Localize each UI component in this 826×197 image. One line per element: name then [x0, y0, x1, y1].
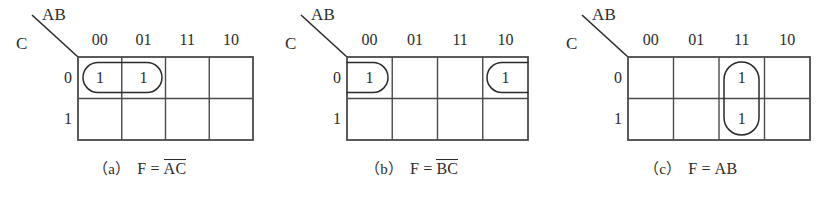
kmap-c-cell-r0-c11: 1	[732, 70, 752, 86]
kmap-c-caption-term-1: A	[715, 160, 727, 177]
kmap-a-c-header: C	[16, 35, 27, 52]
kmap-b-ab-header: AB	[311, 6, 335, 23]
kmap-a-caption-term-2: C	[175, 159, 186, 178]
kmap-b-col-header-01: 01	[392, 32, 438, 48]
kmap-b: AB C 00 01 11 10 0 1 1 1 （b）F=BC	[269, 0, 545, 197]
kmap-c-caption-equals: =	[701, 160, 710, 177]
kmap-c: AB C 00 01 11 10 0 1 1 1 （c）F=AB	[550, 0, 826, 197]
kmap-c-caption-term-2: B	[726, 160, 737, 177]
kmap-b-caption: （b）F=BC	[365, 157, 458, 178]
kmap-a: AB C 00 01 11 10 0 1 1 1 （a）F=AC	[0, 0, 276, 197]
kmap-a-cell-r0-c01: 1	[134, 70, 154, 86]
kmap-c-col-header-11: 11	[719, 32, 765, 48]
kmap-b-col-header-10: 10	[482, 32, 528, 48]
kmap-a-caption-index: （a）	[93, 161, 130, 177]
kmap-a-row-header-0: 0	[56, 70, 72, 86]
kmap-c-row-header-1: 1	[606, 111, 622, 127]
kmap-a-col-header-11: 11	[164, 32, 210, 48]
kmap-a-caption-equals: =	[150, 160, 159, 177]
kmap-b-row-header-0: 0	[325, 70, 341, 86]
kmap-c-ab-header: AB	[592, 6, 616, 23]
kmap-c-c-header: C	[566, 35, 577, 52]
kmap-b-c-header: C	[285, 35, 296, 52]
kmap-a-caption-lhs: F	[137, 160, 146, 177]
kmap-b-row-header-1: 1	[325, 111, 341, 127]
kmap-b-cell-r0-c00: 1	[360, 70, 380, 86]
kmap-b-caption-term-1: B	[436, 159, 447, 178]
kmap-a-col-header-01: 01	[121, 32, 167, 48]
kmap-b-caption-equals: =	[423, 160, 432, 177]
kmap-a-col-header-10: 10	[208, 32, 254, 48]
kmap-b-col-header-11: 11	[437, 32, 483, 48]
kmap-c-cell-r1-c11: 1	[732, 111, 752, 127]
kmap-c-col-header-10: 10	[764, 32, 810, 48]
kmap-a-row-header-1: 1	[56, 111, 72, 127]
kmap-a-caption: （a）F=AC	[93, 157, 186, 178]
kmap-b-caption-term-2: C	[447, 159, 458, 178]
kmap-b-cell-r0-c10: 1	[495, 70, 515, 86]
kmap-a-caption-term-1: A	[164, 159, 176, 178]
kmap-b-caption-index: （b）	[365, 161, 403, 177]
kmap-b-caption-lhs: F	[410, 160, 419, 177]
kmap-a-col-header-00: 00	[77, 32, 123, 48]
kmap-c-caption: （c）F=AB	[644, 157, 737, 178]
kmap-c-col-header-00: 00	[628, 32, 674, 48]
kmap-b-col-header-00: 00	[347, 32, 393, 48]
kmap-c-caption-index: （c）	[644, 161, 681, 177]
kmap-c-row-header-0: 0	[606, 70, 622, 86]
kmap-c-caption-lhs: F	[688, 160, 697, 177]
karnaugh-map-figure: AB C 00 01 11 10 0 1 1 1 （a）F=AC	[0, 0, 826, 197]
kmap-a-ab-header: AB	[42, 6, 66, 23]
kmap-c-col-header-01: 01	[673, 32, 719, 48]
kmap-a-cell-r0-c00: 1	[90, 70, 110, 86]
